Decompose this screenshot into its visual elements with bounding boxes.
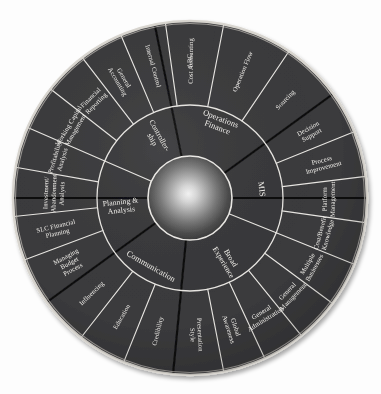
segment-label-line: Cost Accounting [187,38,194,84]
segment-label-line: Management [329,181,336,217]
segment-label-line: Platform [321,186,328,211]
segment-label-line: Investment/ [41,177,49,210]
segment-label-line: Abandonment [49,174,57,213]
segment-label-line: Analysis [57,181,65,205]
segment-label-line: MIS [256,181,267,197]
competency-wheel: ABCOperation FlowSourcingDecisionSupport… [0,0,381,394]
diagram-canvas: ABCOperation FlowSourcingDecisionSupport… [0,0,381,394]
inner-label-mis: MIS [256,181,267,197]
outer-label-cost-accounting: Cost Accounting [187,38,194,84]
segment-label-line: Style [189,328,197,342]
wheel-body: ABCOperation FlowSourcingDecisionSupport… [13,21,367,375]
